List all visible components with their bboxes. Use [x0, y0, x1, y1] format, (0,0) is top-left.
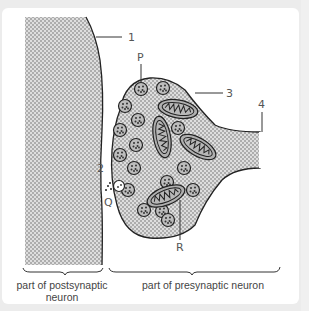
caption-postsynaptic: part of postsynaptic neuron — [14, 279, 110, 303]
releasing-vesicle — [114, 181, 125, 192]
label-Q: Q — [104, 196, 113, 209]
caption-presynaptic: part of presynaptic neuron — [128, 279, 278, 291]
presynaptic-brace — [109, 267, 280, 275]
label-3: 3 — [226, 87, 233, 100]
label-4: 4 — [258, 98, 265, 111]
synapse-diagram: 1 P 3 4 2 Q R — [0, 0, 309, 311]
postsynaptic-brace — [23, 268, 103, 275]
postsynaptic-membrane — [25, 17, 103, 265]
label-R: R — [176, 241, 184, 254]
label-2: 2 — [97, 162, 104, 175]
label-P: P — [137, 51, 144, 64]
label-1: 1 — [128, 31, 135, 44]
